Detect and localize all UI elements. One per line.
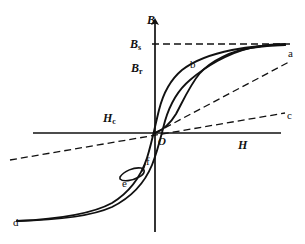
hysteresis-figure: B H O Bs Br Hc a b c d e f <box>0 0 305 244</box>
point-label-b: b <box>190 59 196 70</box>
b-axis-label: B <box>147 14 155 26</box>
point-label-c: c <box>287 110 292 121</box>
saturation-flux-label: Bs <box>130 38 141 50</box>
initial-magnetization-curve <box>155 45 285 133</box>
coercivity-symbol: H <box>103 111 112 125</box>
saturation-flux-subscript: s <box>138 43 141 52</box>
h-axis-label: H <box>238 139 247 151</box>
remanence-flux-symbol: B <box>131 61 139 75</box>
origin-label: O <box>158 136 166 147</box>
coercivity-label: Hc <box>103 112 116 124</box>
initial-permeability-dashed-line <box>10 113 285 160</box>
remanence-flux-subscript: r <box>139 67 143 76</box>
hysteresis-plot-svg <box>0 0 305 244</box>
point-label-a: a <box>288 48 293 59</box>
remanence-flux-label: Br <box>131 62 143 74</box>
point-label-f: f <box>146 156 150 167</box>
coercivity-subscript: c <box>112 117 116 126</box>
saturation-flux-symbol: B <box>130 37 138 51</box>
point-label-d: d <box>13 217 19 228</box>
point-label-e: e <box>122 178 127 189</box>
